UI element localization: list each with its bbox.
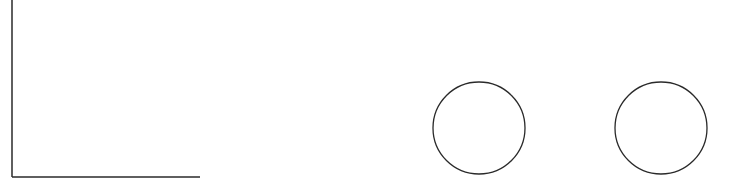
circle-left	[433, 82, 525, 174]
circle-right	[615, 82, 707, 174]
diagram-canvas	[0, 0, 742, 188]
axes	[12, 0, 200, 177]
